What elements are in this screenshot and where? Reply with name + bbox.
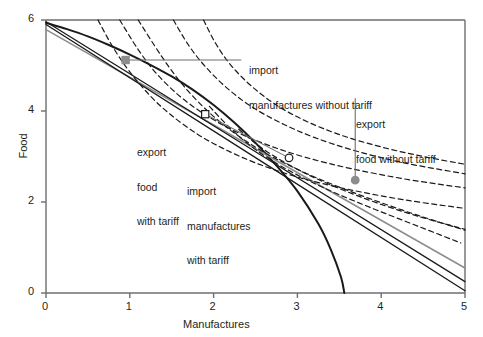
x-tick-label: 1 [126,300,132,312]
y-axis-title: Food [17,116,29,176]
annotation-line-1: import [187,186,251,198]
chart-figure: Food Manufactures import manufactures wi… [0,0,483,337]
marker-export-food-without-tariff-production [122,56,129,63]
x-tick-label: 3 [293,300,299,312]
annotation-export-food-without-tariff: export food without tariff [356,96,436,188]
annotation-line-2: manufactures [187,221,251,233]
marker-export-food-with-tariff-production [202,111,209,118]
x-tick-label: 0 [42,300,48,312]
annotation-import-manufactures-without-tariff: import manufactures without tariff [249,42,372,134]
marker-import-manufactures-with-tariff-consumption [285,154,293,162]
annotation-line-1: export [356,119,436,131]
x-tick-label: 5 [461,300,467,312]
x-tick-label: 4 [377,300,383,312]
annotation-line-1: export [137,147,179,159]
y-tick-label: 4 [28,103,34,115]
annotation-import-manufactures-with-tariff: import manufactures with tariff [187,163,251,290]
y-tick-label: 0 [28,285,34,297]
annotation-line-2: food [137,182,179,194]
annotation-line-2: manufactures without tariff [249,100,372,112]
annotation-line-2: food without tariff [356,154,436,166]
x-tick-label: 2 [210,300,216,312]
annotation-line-3: with tariff [187,255,251,267]
annotation-export-food-with-tariff: export food with tariff [137,124,179,251]
x-axis-title: Manufactures [183,318,250,330]
y-tick-label: 2 [28,194,34,206]
annotation-line-1: import [249,65,372,77]
y-tick-label: 6 [28,12,34,24]
annotation-line-3: with tariff [137,216,179,228]
